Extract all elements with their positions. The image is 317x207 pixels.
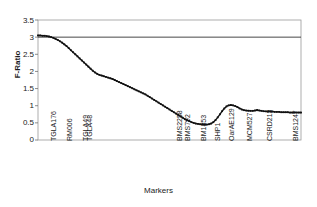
x-tick-label-shp1: SHP1	[214, 123, 221, 141]
x-tick-label-bms792: BMS792	[184, 114, 191, 141]
x-tick-label-bms2258: BMS2258	[176, 110, 183, 141]
x-tick-label-csrd213: CSRD213	[266, 109, 273, 141]
x-axis-title: Markers	[0, 186, 317, 195]
plot-frame	[38, 20, 301, 140]
x-tick-label-bm1853: BM1853	[200, 115, 207, 141]
x-tick-label-tgla48: TGLA48	[86, 115, 93, 141]
plot-canvas	[0, 0, 317, 207]
x-tick-label-tgla176: TGLA176	[50, 111, 57, 141]
data-series	[37, 35, 258, 126]
f-ratio-chart: F-Ratio 3.5 3 2.5 2 1.5 1 0.5 0 TGLA176 …	[0, 0, 317, 207]
x-tick-label-mcm527: MCM527	[246, 113, 253, 141]
x-tick-label-oarae129: OarAE129	[228, 108, 235, 141]
x-tick-label-bms1247: BMS1247	[292, 110, 299, 141]
x-tick-label-rm006: RM006	[66, 118, 73, 141]
